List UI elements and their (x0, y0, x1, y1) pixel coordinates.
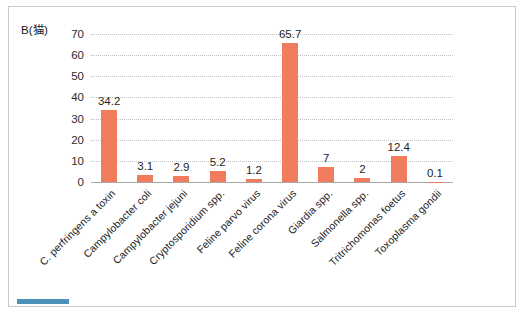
x-label-slot: Feline corona virus (272, 183, 308, 293)
bar-value-label: 65.7 (279, 28, 301, 40)
bar-slot: 7 (308, 34, 344, 182)
bars-group: 34.23.12.95.21.265.77212.40.1 (91, 34, 453, 182)
y-tick-label-40: 40 (71, 91, 84, 103)
chart-title: B(猫) (21, 21, 48, 37)
y-tick-label-70: 70 (71, 28, 84, 40)
y-tick-label-20: 20 (71, 134, 84, 146)
x-axis-category-labels: C. perfringens a toxinCampylobacter coli… (91, 183, 453, 293)
bar-value-label: 2 (359, 163, 365, 175)
bar-value-label: 1.2 (246, 164, 262, 176)
bar[interactable] (210, 171, 226, 182)
y-tick-label-0: 0 (78, 176, 84, 188)
plot-area: 010203040506070 34.23.12.95.21.265.77212… (91, 34, 453, 182)
bar-slot: 5.2 (200, 34, 236, 182)
y-tick-label-10: 10 (71, 155, 84, 167)
x-label-slot: Toxoplasma gondii (417, 183, 453, 293)
bar-slot: 2 (344, 34, 380, 182)
bar-value-label: 7 (323, 152, 329, 164)
y-tick-label-50: 50 (71, 70, 84, 82)
bar-value-label: 34.2 (98, 95, 120, 107)
bar-slot: 34.2 (91, 34, 127, 182)
bar-value-label: 12.4 (387, 141, 409, 153)
bar-value-label: 0.1 (427, 167, 443, 179)
y-tick-label-30: 30 (71, 113, 84, 125)
bar[interactable] (173, 176, 189, 182)
figure-frame: B(猫) 010203040506070 34.23.12.95.21.265.… (8, 6, 516, 307)
bar-slot: 0.1 (417, 34, 453, 182)
bottom-accent-bar (17, 299, 69, 304)
bar-slot: 65.7 (272, 34, 308, 182)
y-tick-label-60: 60 (71, 49, 84, 61)
bar[interactable] (137, 175, 153, 182)
bar-slot: 2.9 (163, 34, 199, 182)
bar[interactable] (354, 178, 370, 182)
bar[interactable] (391, 156, 407, 182)
bar-slot: 3.1 (127, 34, 163, 182)
bar[interactable] (101, 110, 117, 182)
bar-value-label: 5.2 (210, 156, 226, 168)
bar-slot: 12.4 (381, 34, 417, 182)
bar-slot: 1.2 (236, 34, 272, 182)
bar[interactable] (282, 43, 298, 182)
bar[interactable] (246, 179, 262, 182)
bar-value-label: 2.9 (173, 161, 189, 173)
bar-value-label: 3.1 (137, 160, 153, 172)
bar[interactable] (318, 167, 334, 182)
